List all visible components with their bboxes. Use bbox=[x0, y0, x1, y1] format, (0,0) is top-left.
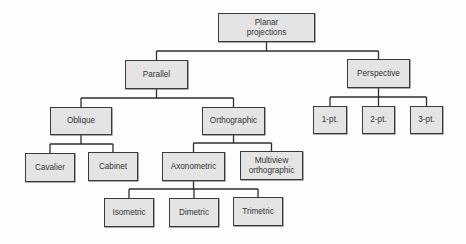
node-cavalier: Cavalier bbox=[25, 153, 75, 182]
node-threept: 3-pt. bbox=[410, 106, 443, 134]
node-dimetric: Dimetric bbox=[169, 198, 219, 227]
diagram-canvas: Planar projectionsParallelPerspectiveObl… bbox=[0, 0, 466, 244]
node-orthographic: Orthographic bbox=[202, 107, 265, 135]
node-multiview: Multiview orthographic bbox=[240, 151, 303, 180]
node-parallel: Parallel bbox=[125, 60, 188, 89]
node-planar: Planar projections bbox=[218, 13, 315, 42]
node-cabinet: Cabinet bbox=[88, 152, 138, 181]
node-oblique: Oblique bbox=[50, 107, 112, 135]
node-axonometric: Axonometric bbox=[162, 152, 225, 181]
node-perspective: Perspective bbox=[347, 59, 410, 88]
node-trimetric: Trimetric bbox=[233, 197, 283, 226]
node-twopt: 2-pt. bbox=[362, 106, 395, 134]
node-onept: 1-pt. bbox=[313, 106, 347, 134]
node-isometric: Isometric bbox=[104, 198, 154, 227]
